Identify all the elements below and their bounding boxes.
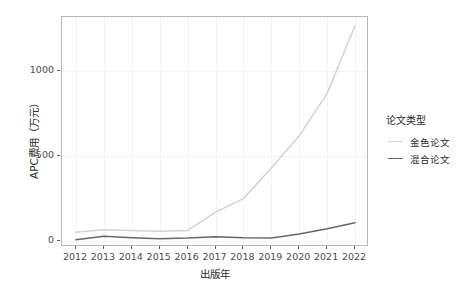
x-tick-mark-2013 — [103, 246, 104, 249]
x-tick-mark-2014 — [131, 246, 132, 249]
y-tick-mark-500 — [57, 155, 60, 156]
x-tick-mark-2022 — [354, 246, 355, 249]
x-tick-mark-2021 — [326, 246, 327, 249]
x-tick-mark-2015 — [159, 246, 160, 249]
y-tick-mark-1000 — [57, 70, 60, 71]
legend-item-混合论文[interactable]: 混合论文 — [387, 150, 472, 167]
x-tick-mark-2020 — [298, 246, 299, 249]
chart-figure: APC费用（万元） 05001000 201220132014201520162… — [0, 0, 472, 287]
series-line-金色论文 — [76, 25, 355, 232]
x-axis-title: 出版年 — [61, 266, 368, 281]
legend-item-label: 混合论文 — [410, 152, 450, 166]
x-tick-mark-2012 — [75, 246, 76, 249]
legend-title: 论文类型 — [386, 112, 472, 127]
legend-item-金色论文[interactable]: 金色论文 — [387, 133, 472, 150]
legend-item-list: 金色论文混合论文 — [386, 133, 472, 167]
y-tick-label-group: 05001000 — [18, 0, 54, 287]
y-tick-label-0: 0 — [20, 235, 54, 245]
y-tick-label-1000: 1000 — [20, 65, 54, 75]
x-tick-mark-2018 — [242, 246, 243, 249]
x-tick-label-2022: 2022 — [334, 251, 374, 262]
legend: 论文类型 金色论文混合论文 — [386, 112, 472, 167]
y-tick-label-500: 500 — [20, 150, 54, 160]
legend-line-swatch-icon — [387, 153, 404, 164]
series-lines — [62, 17, 368, 246]
plot-panel — [61, 16, 368, 246]
x-tick-mark-2019 — [270, 246, 271, 249]
x-tick-mark-2016 — [187, 246, 188, 249]
legend-line-swatch-icon — [387, 136, 404, 147]
legend-item-label: 金色论文 — [410, 135, 450, 149]
series-line-混合论文 — [76, 223, 355, 240]
y-tick-mark-0 — [57, 240, 60, 241]
x-tick-mark-2017 — [215, 246, 216, 249]
